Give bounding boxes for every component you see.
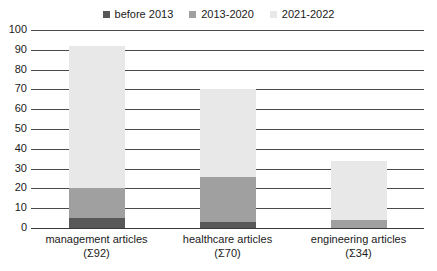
- legend-item: 2013-2020: [189, 9, 254, 20]
- y-axis-tick-label: 30: [0, 163, 27, 174]
- bar-segment: [69, 188, 125, 218]
- y-axis-tick-label: 70: [0, 83, 27, 94]
- category-name: healthcare articles: [183, 233, 272, 245]
- y-axis-tick-label: 100: [0, 24, 27, 35]
- category-name: management articles: [45, 233, 147, 245]
- bar-segment: [331, 161, 387, 220]
- x-axis-category-label: healthcare articles(Σ70): [162, 232, 293, 260]
- y-axis-tick-label: 80: [0, 64, 27, 75]
- y-axis-tick-label: 50: [0, 123, 27, 134]
- plot-area: [31, 30, 424, 228]
- x-axis-category-label: engineering articles(Σ34): [293, 232, 424, 260]
- legend-item-label: before 2013: [115, 9, 174, 20]
- bar-column: [331, 161, 387, 228]
- category-total: (Σ34): [293, 246, 424, 260]
- bar-segment: [69, 46, 125, 189]
- y-axis-tick-label: 60: [0, 103, 27, 114]
- stacked-bar-chart: before 20132013-20202021-2022 1009080706…: [0, 0, 437, 271]
- legend-swatch-icon: [103, 11, 110, 18]
- legend-swatch-icon: [270, 11, 277, 18]
- legend-item: 2021-2022: [270, 9, 335, 20]
- bar-segment: [69, 218, 125, 228]
- category-total: (Σ92): [31, 246, 162, 260]
- legend-item: before 2013: [103, 9, 174, 20]
- y-axis-tick-label: 40: [0, 143, 27, 154]
- bar-column: [69, 46, 125, 228]
- x-axis-category-label: management articles(Σ92): [31, 232, 162, 260]
- y-axis-tick-label: 90: [0, 44, 27, 55]
- chart-legend: before 20132013-20202021-2022: [0, 6, 437, 22]
- legend-item-label: 2013-2020: [201, 9, 254, 20]
- gridline: [31, 30, 424, 31]
- category-total: (Σ70): [162, 246, 293, 260]
- bar-segment: [200, 177, 256, 223]
- category-name: engineering articles: [311, 233, 406, 245]
- y-axis-tick-label: 10: [0, 202, 27, 213]
- bar-segment: [331, 220, 387, 228]
- bar-segment: [200, 222, 256, 228]
- legend-item-label: 2021-2022: [282, 9, 335, 20]
- y-axis-tick-label: 0: [0, 222, 27, 233]
- legend-swatch-icon: [189, 11, 196, 18]
- y-axis-tick-label: 20: [0, 182, 27, 193]
- x-axis-line: [31, 228, 424, 229]
- bar-column: [200, 89, 256, 228]
- bar-segment: [200, 89, 256, 176]
